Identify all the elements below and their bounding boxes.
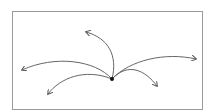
arrow-up <box>86 32 114 79</box>
origin-point <box>110 77 114 81</box>
arrow-lower-left <box>48 74 112 94</box>
radiating-arrows-diagram <box>0 0 212 112</box>
arrow-left <box>22 61 112 79</box>
arrows-group <box>22 32 196 94</box>
arrow-right <box>112 56 196 79</box>
arrow-lower-right <box>112 70 157 86</box>
